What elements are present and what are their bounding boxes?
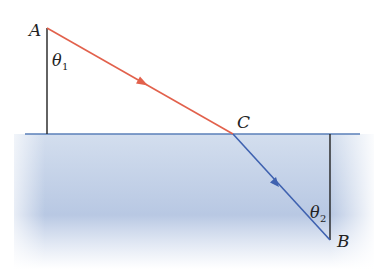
svg-text:θ: θ: [52, 51, 62, 70]
theta1-label: θ 1: [52, 51, 68, 72]
svg-text:θ: θ: [310, 203, 320, 222]
svg-text:2: 2: [320, 213, 326, 224]
refraction-diagram: A C B θ 1 θ 2: [0, 0, 378, 269]
diagram-canvas: A C B θ 1 θ 2: [0, 0, 378, 269]
point-c-label: C: [237, 112, 250, 132]
point-b-label: B: [336, 231, 350, 251]
svg-text:1: 1: [62, 61, 68, 72]
water-region: [0, 134, 378, 269]
incident-arrow-icon: [136, 77, 148, 86]
point-a-label: A: [27, 20, 41, 40]
